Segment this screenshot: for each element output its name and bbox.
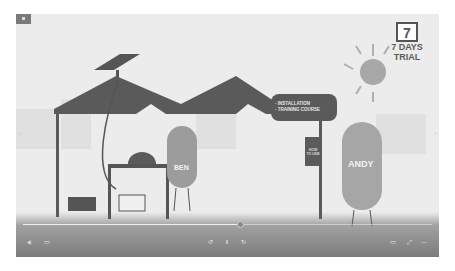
trial-day-number: 7 (403, 25, 411, 41)
calendar-icon: 7 (396, 22, 418, 42)
trial-line-2: TRIAL (387, 52, 427, 62)
pause-icon[interactable]: ‖ (224, 239, 230, 245)
solar-panel-icon (94, 54, 140, 78)
battery-icon (119, 195, 145, 211)
character-name-ben: BEN (174, 164, 189, 171)
video-player[interactable]: 7 7 DAYS TRIAL · INSTALLATION · TRAINING… (16, 14, 439, 257)
progress-bar[interactable] (23, 224, 432, 225)
prev-arrow[interactable]: ‹ (18, 129, 21, 138)
bubble-item: · TRAINING COURSE (275, 107, 337, 113)
speech-bubble: · INSTALLATION · TRAINING COURSE (271, 94, 337, 121)
trial-badge: 7 7 DAYS TRIAL (387, 22, 427, 62)
subtitles-icon[interactable]: ▭ (44, 239, 50, 245)
fullscreen-icon[interactable]: ⤢ (406, 239, 412, 245)
saw-icon (128, 152, 156, 164)
toolbox-icon (68, 197, 96, 211)
progress-fill (23, 224, 240, 225)
next-arrow[interactable]: › (434, 129, 437, 138)
progress-thumb[interactable] (237, 221, 244, 228)
forward-icon[interactable]: ↻ (240, 239, 246, 245)
character-name-andy: ANDY (348, 159, 374, 169)
sun-icon (344, 44, 389, 102)
theater-mode-icon[interactable]: ▭ (390, 239, 396, 245)
rewind-icon[interactable]: ↺ (207, 239, 213, 245)
player-controls: ◂) ▭ ↺ ‖ ↻ ▭ ⤢ ⋯ (16, 212, 439, 257)
volume-icon[interactable]: ◂) (26, 239, 32, 245)
menu-icon (22, 17, 25, 20)
sign-line-2: TO USE (305, 152, 321, 156)
roof (54, 76, 296, 114)
menu-button[interactable] (16, 14, 31, 24)
trial-line-1: 7 DAYS (387, 42, 427, 52)
more-icon[interactable]: ⋯ (421, 239, 427, 245)
how-to-use-sign: HOW TO USE (305, 137, 321, 166)
